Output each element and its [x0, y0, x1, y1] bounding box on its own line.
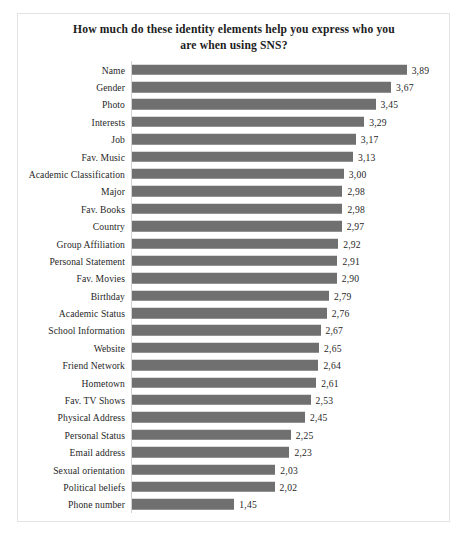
- chart-row: School Information2,67: [26, 322, 436, 339]
- bar: [132, 204, 342, 215]
- chart-row: Major2,98: [26, 183, 436, 200]
- chart-row: Job3,17: [26, 131, 436, 148]
- bar-value-label: 2,98: [347, 203, 365, 214]
- bar-value-label: 2,92: [343, 238, 361, 249]
- category-label: Fav. Books: [81, 203, 125, 214]
- bar-value-label: 3,45: [381, 99, 399, 110]
- category-label: Physical Address: [58, 412, 125, 423]
- bar-value-label: 2,65: [324, 342, 342, 353]
- bar: [132, 308, 327, 319]
- chart-row: Hometown2,61: [26, 374, 436, 391]
- category-label: Hometown: [82, 377, 125, 388]
- chart-row: Fav. TV Shows2,53: [26, 391, 436, 408]
- bar: [132, 117, 364, 128]
- chart-row: Political beliefs2,02: [26, 478, 436, 495]
- category-label: Interests: [92, 116, 125, 127]
- category-label: School Information: [48, 325, 125, 336]
- bar: [132, 256, 337, 267]
- category-label: Friend Network: [63, 360, 125, 371]
- category-label: Job: [111, 134, 125, 145]
- category-label: Group Affiliation: [57, 238, 125, 249]
- bar: [132, 430, 291, 441]
- chart-row: Fav. Music3,13: [26, 148, 436, 165]
- chart-title: How much do these identity elements help…: [30, 22, 438, 53]
- category-label: Email address: [70, 447, 125, 458]
- bar: [132, 447, 289, 458]
- bar-value-label: 2,97: [347, 221, 365, 232]
- chart-row: Gender3,67: [26, 78, 436, 95]
- category-label: Political beliefs: [63, 481, 125, 492]
- chart-title-line-2: are when using SNS?: [180, 39, 287, 52]
- category-label: Fav. Movies: [77, 273, 125, 284]
- bar-value-label: 2,53: [316, 394, 334, 405]
- chart-title-line-1: How much do these identity elements help…: [73, 23, 395, 36]
- bar-value-label: 2,23: [294, 447, 312, 458]
- bar: [132, 238, 338, 249]
- category-label: Sexual orientation: [53, 464, 125, 475]
- chart-row: Website2,65: [26, 339, 436, 356]
- bar-value-label: 3,13: [358, 151, 376, 162]
- bar-value-label: 3,00: [349, 168, 367, 179]
- bar: [132, 290, 329, 301]
- category-label: Photo: [102, 99, 125, 110]
- bar: [132, 412, 305, 423]
- bar-value-label: 2,61: [321, 377, 339, 388]
- bar: [132, 482, 275, 493]
- category-label: Phone number: [68, 499, 125, 510]
- chart-row: Interests3,29: [26, 113, 436, 130]
- bar-value-label: 2,98: [347, 186, 365, 197]
- chart-row: Email address2,23: [26, 443, 436, 460]
- category-label: Personal Statement: [49, 255, 125, 266]
- bar: [132, 64, 407, 75]
- category-label: Academic Status: [59, 308, 125, 319]
- bar: [132, 395, 311, 406]
- category-label: Gender: [96, 82, 125, 93]
- bar-value-label: 2,67: [326, 325, 344, 336]
- bar-value-label: 2,25: [296, 429, 314, 440]
- bar: [132, 499, 234, 510]
- category-label: Personal Status: [65, 429, 125, 440]
- chart-row: Photo3,45: [26, 96, 436, 113]
- bar: [132, 360, 318, 371]
- chart-row: Physical Address2,45: [26, 409, 436, 426]
- category-label: Birthday: [91, 290, 125, 301]
- chart-row: Birthday2,79: [26, 287, 436, 304]
- chart-row: Fav. Movies2,90: [26, 270, 436, 287]
- bar: [132, 464, 275, 475]
- bar-value-label: 1,45: [239, 499, 257, 510]
- bar-value-label: 2,02: [280, 481, 298, 492]
- chart-row: Academic Classification3,00: [26, 165, 436, 182]
- bar-value-label: 2,64: [323, 360, 341, 371]
- chart-row: Personal Statement2,91: [26, 252, 436, 269]
- bar-value-label: 2,45: [310, 412, 328, 423]
- bar-value-label: 3,29: [369, 116, 387, 127]
- category-label: Fav. Music: [81, 151, 125, 162]
- bar: [132, 82, 391, 93]
- plot-area: Name3,89Gender3,67Photo3,45Interests3,29…: [26, 61, 436, 513]
- chart-row: Country2,97: [26, 217, 436, 234]
- bar: [132, 151, 353, 162]
- chart-row: Phone number1,45: [26, 496, 436, 513]
- category-label: Fav. TV Shows: [65, 394, 125, 405]
- bar-value-label: 2,90: [342, 273, 360, 284]
- chart-row: Group Affiliation2,92: [26, 235, 436, 252]
- bar-value-label: 2,79: [334, 290, 352, 301]
- bar: [132, 169, 344, 180]
- bar: [132, 221, 342, 232]
- bar-value-label: 3,89: [412, 64, 430, 75]
- bar: [132, 377, 316, 388]
- bar: [132, 99, 376, 110]
- bar-value-label: 3,17: [361, 134, 379, 145]
- bar-value-label: 2,03: [280, 464, 298, 475]
- chart-row: Friend Network2,64: [26, 357, 436, 374]
- bar-value-label: 2,91: [342, 255, 360, 266]
- bar: [132, 186, 342, 197]
- category-label: Major: [101, 186, 125, 197]
- chart-row: Fav. Books2,98: [26, 200, 436, 217]
- bar-value-label: 3,67: [396, 82, 414, 93]
- category-label: Academic Classification: [29, 168, 125, 179]
- bar: [132, 325, 321, 336]
- bar: [132, 134, 356, 145]
- bar: [132, 343, 319, 354]
- chart-row: Sexual orientation2,03: [26, 461, 436, 478]
